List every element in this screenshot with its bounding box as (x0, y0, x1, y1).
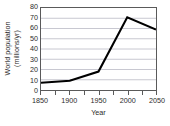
x-axis-tick-label: 1950 (91, 97, 107, 105)
x-axis-tick-label: 2050 (149, 97, 165, 105)
y-axis-tick-label: 80 (24, 3, 38, 10)
y-axis-title: World population (millions/yr) (0, 0, 26, 96)
y-axis-tick-label: 60 (24, 24, 38, 31)
x-axis-tick (69, 91, 70, 95)
y-axis-title-line2: (millions/yr) (13, 21, 22, 75)
x-axis-tick (55, 91, 56, 95)
x-axis-tick-label: 1850 (32, 97, 48, 105)
chart-svg (41, 8, 156, 90)
x-axis-tick-label: 1900 (61, 97, 77, 105)
chart-figure: World population (millions/yr) 010203040… (0, 0, 170, 126)
x-axis-tick (113, 91, 114, 95)
y-axis-tick-label: 50 (24, 35, 38, 42)
y-axis-tick-label: 0 (24, 87, 38, 94)
y-axis-tick-label: 70 (24, 14, 38, 21)
y-axis-tick-label: 30 (24, 56, 38, 63)
plot-area (40, 7, 157, 91)
y-axis-tick-label: 20 (24, 66, 38, 73)
y-axis-tick-label: 40 (24, 45, 38, 52)
x-axis-title: Year (40, 109, 157, 117)
x-axis-tick-label: 2000 (120, 97, 136, 105)
x-axis-tick (40, 91, 41, 95)
x-axis-tick (156, 91, 157, 95)
y-axis-tick-label: 10 (24, 77, 38, 84)
x-axis-tick (128, 91, 129, 95)
x-axis-tick (99, 91, 100, 95)
x-axis-tick (84, 91, 85, 95)
x-axis-tick-labels: 18501900195020002050 (40, 97, 157, 107)
data-line-world-population (41, 17, 156, 83)
x-axis-tick (142, 91, 143, 95)
y-axis-tick-labels: 01020304050607080 (24, 7, 38, 91)
